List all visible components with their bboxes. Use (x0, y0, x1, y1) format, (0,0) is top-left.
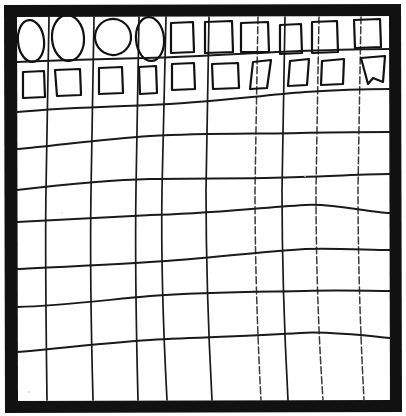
speck (28, 391, 30, 393)
hand-drawn-grid-figure (0, 0, 406, 416)
speck (304, 175, 306, 177)
figure-canvas: Hand-drawn grid figure A hand-drawn squa… (0, 0, 406, 416)
speck (61, 212, 63, 214)
border-right-band (389, 4, 402, 412)
border-left-band (4, 5, 18, 413)
border-bottom-band (5, 400, 402, 413)
